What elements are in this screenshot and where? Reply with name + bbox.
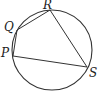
circle <box>12 10 92 90</box>
geometry-diagram: R Q P S <box>0 0 100 96</box>
label-q: Q <box>4 20 14 34</box>
label-r: R <box>42 0 52 12</box>
label-s: S <box>89 66 97 80</box>
label-p: P <box>0 46 10 60</box>
